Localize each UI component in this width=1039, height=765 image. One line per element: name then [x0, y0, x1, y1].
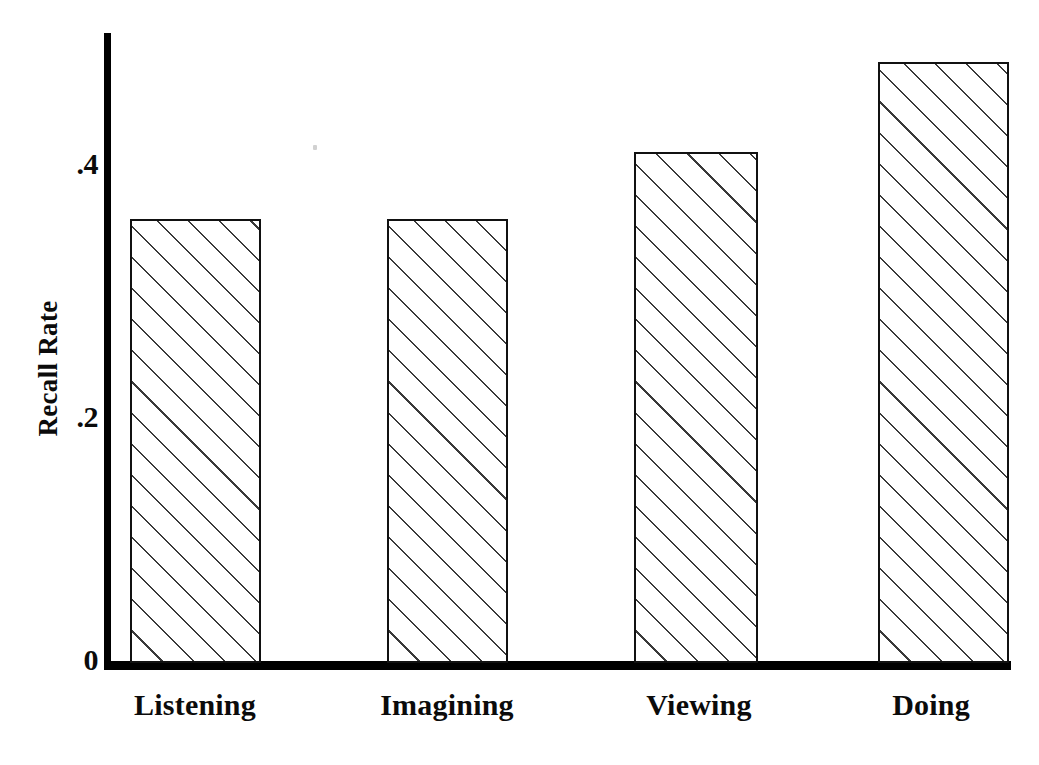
bar-doing	[878, 62, 1009, 663]
bar-chart: .4 .2 0 Recall Rate Listening Imagining …	[0, 0, 1039, 765]
x-label-imagining: Imagining	[380, 688, 514, 722]
x-label-listening: Listening	[134, 688, 256, 722]
y-tick-label-0: 0	[38, 645, 98, 675]
bar-listening	[130, 219, 261, 663]
x-label-doing: Doing	[892, 688, 970, 722]
bar-imagining	[387, 219, 508, 663]
scan-artifact-speck	[313, 145, 317, 150]
bar-viewing	[634, 152, 758, 663]
y-axis-title: Recall Rate	[35, 269, 62, 469]
y-tick-label-04: .4	[38, 149, 98, 179]
x-label-viewing: Viewing	[646, 688, 751, 722]
y-axis-line	[104, 33, 111, 667]
